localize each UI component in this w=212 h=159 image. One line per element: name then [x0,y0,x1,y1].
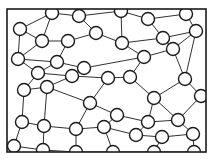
circle-node [84,97,97,110]
circle-node [78,62,91,75]
circle-node [157,32,170,45]
circle-node [8,140,21,153]
circle-node [90,27,103,40]
circle-node [111,109,124,122]
circle-node [98,121,111,134]
circle-node [167,43,180,56]
circle-node [179,73,192,86]
circle-node [116,37,129,50]
circle-node [124,71,137,84]
circle-node [148,92,161,105]
circle-node [66,70,79,83]
circle-node [130,129,143,142]
circle-node [51,56,64,69]
circle-node [41,81,54,94]
circle-node [18,84,31,97]
circle-node [12,53,25,66]
circle-node [16,116,29,129]
circle-node [142,13,155,26]
circle-node [190,25,203,38]
circle-node [115,5,128,18]
circle-node [187,128,200,141]
circle-node [73,10,86,23]
foam-network-diagram [0,0,212,159]
circle-node [70,123,83,136]
circle-node [62,35,75,48]
circle-node [138,51,151,64]
circle-node [102,72,115,85]
edge-line [84,57,144,68]
circle-node [172,114,185,127]
circle-node [36,35,49,48]
circle-node [14,23,27,36]
circle-node [37,144,50,157]
circle-node [156,131,169,144]
circle-node [32,67,45,80]
circle-node [142,116,155,129]
circle-node [38,120,51,133]
